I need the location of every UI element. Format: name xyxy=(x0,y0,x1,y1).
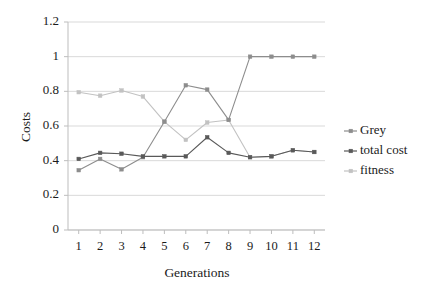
x-tick-label: 10 xyxy=(265,239,278,253)
x-tick-label: 3 xyxy=(118,239,124,253)
x-tick-labels: 123456789101112 xyxy=(76,239,321,253)
data-point-marker xyxy=(205,121,209,125)
data-point-marker xyxy=(205,135,209,139)
data-point-marker xyxy=(98,151,102,155)
legend-entry-label[interactable]: total cost xyxy=(360,142,408,157)
y-tick-label: 1.2 xyxy=(43,13,59,28)
data-point-marker xyxy=(120,89,124,93)
data-point-marker xyxy=(120,152,124,156)
data-point-marker xyxy=(141,95,145,99)
x-tick-label: 4 xyxy=(140,239,147,253)
data-point-marker xyxy=(291,55,295,59)
data-point-marker xyxy=(98,94,102,98)
data-point-marker xyxy=(227,118,231,122)
data-point-marker xyxy=(77,168,81,172)
line-chart: 00.20.40.60.811.2 123456789101112 Genera… xyxy=(0,0,432,292)
data-point-marker xyxy=(248,155,252,159)
chart-canvas: 00.20.40.60.811.2 123456789101112 Genera… xyxy=(0,0,432,292)
data-point-marker xyxy=(98,157,102,161)
y-tick-label: 0.4 xyxy=(43,152,60,167)
data-point-marker xyxy=(163,120,167,124)
data-point-marker xyxy=(291,148,295,152)
x-tick-label: 2 xyxy=(97,239,103,253)
data-point-marker xyxy=(163,155,167,159)
legend-swatch-marker xyxy=(349,169,353,173)
data-point-marker xyxy=(248,55,252,59)
data-point-marker xyxy=(184,155,188,159)
gridlines xyxy=(68,22,325,230)
legend-entry-label[interactable]: Grey xyxy=(360,122,386,137)
data-point-marker xyxy=(77,90,81,94)
y-tick-label: 0.6 xyxy=(43,117,60,132)
x-tick-label: 6 xyxy=(183,239,189,253)
legend-entry-label[interactable]: fitness xyxy=(360,162,394,177)
legend: Greytotal costfitness xyxy=(344,122,408,177)
data-point-marker xyxy=(120,168,124,172)
y-axis-ticks xyxy=(64,22,68,230)
legend-swatch-marker xyxy=(349,129,353,133)
x-tick-label: 12 xyxy=(308,239,321,253)
series-grey xyxy=(77,55,316,172)
y-tick-label: 0.2 xyxy=(43,186,59,201)
data-point-marker xyxy=(77,157,81,161)
legend-swatch-marker xyxy=(349,149,353,153)
x-tick-label: 5 xyxy=(161,239,167,253)
x-tick-label: 11 xyxy=(287,239,299,253)
series-line xyxy=(79,137,315,159)
data-point-marker xyxy=(227,151,231,155)
x-tick-label: 7 xyxy=(204,239,210,253)
x-tick-label: 1 xyxy=(76,239,82,253)
data-point-marker xyxy=(184,83,188,87)
data-point-marker xyxy=(312,55,316,59)
data-point-marker xyxy=(312,150,316,154)
y-tick-labels: 00.20.40.60.811.2 xyxy=(43,13,60,236)
y-axis-title: Costs xyxy=(18,112,33,142)
series-fitness xyxy=(77,89,316,159)
x-tick-label: 9 xyxy=(247,239,253,253)
data-point-marker xyxy=(270,155,274,159)
y-tick-label: 0.8 xyxy=(43,82,59,97)
data-point-marker xyxy=(270,55,274,59)
x-axis-title: Generations xyxy=(164,265,229,280)
x-axis-ticks xyxy=(79,230,315,234)
y-tick-label: 0 xyxy=(53,221,60,236)
data-point-marker xyxy=(205,88,209,92)
x-tick-label: 8 xyxy=(226,239,232,253)
y-tick-label: 1 xyxy=(53,48,60,63)
series-total-cost xyxy=(77,135,316,160)
data-point-marker xyxy=(141,155,145,159)
data-point-marker xyxy=(184,138,188,142)
